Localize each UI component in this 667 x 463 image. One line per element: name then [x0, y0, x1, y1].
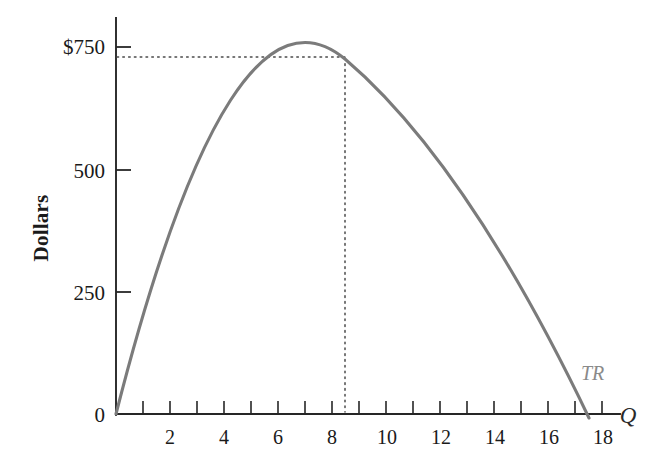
- x-tick-label-4: 4: [219, 426, 229, 448]
- y-tick-label-0: 0: [95, 403, 106, 427]
- x-tick-group: [143, 401, 602, 414]
- series-label-tr: TR: [581, 362, 604, 384]
- total-revenue-chart: $750 500 250 0 2 4 6 8 10 12 14 16 18 Do…: [0, 0, 667, 463]
- y-tick-label-500: 500: [74, 159, 106, 183]
- y-axis-title: Dollars: [29, 195, 53, 262]
- x-tick-label-14: 14: [485, 426, 505, 448]
- y-tick-label-250: 250: [74, 281, 106, 305]
- y-tick-label-750: $750: [63, 35, 105, 59]
- x-tick-label-2: 2: [165, 426, 175, 448]
- x-tick-label-8: 8: [327, 426, 337, 448]
- x-axis-title: Q: [620, 403, 637, 428]
- total-revenue-curve: [116, 42, 589, 418]
- x-tick-label-6: 6: [273, 426, 283, 448]
- x-tick-label-10: 10: [377, 426, 397, 448]
- x-tick-label-18: 18: [593, 426, 613, 448]
- x-tick-label-12: 12: [431, 426, 451, 448]
- x-tick-label-16: 16: [539, 426, 559, 448]
- chart-canvas: $750 500 250 0 2 4 6 8 10 12 14 16 18 Do…: [0, 0, 667, 463]
